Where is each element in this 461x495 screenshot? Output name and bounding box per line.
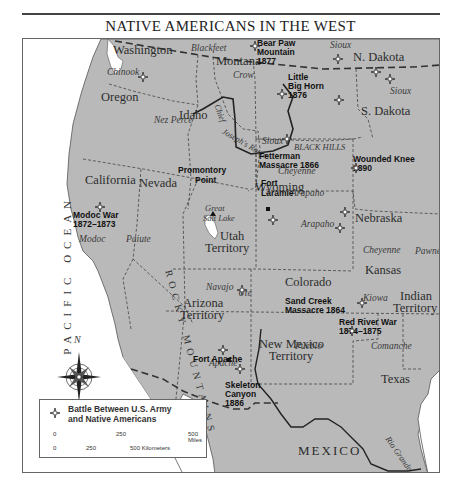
tribe-chinook: Chinook: [107, 68, 139, 78]
state-washington: Washington: [113, 44, 172, 57]
battle-star-icon: [138, 72, 148, 82]
tribe-sioux-wy: Sioux: [262, 137, 283, 147]
pacific-ocean-label: PACIFIC OCEAN: [62, 155, 74, 355]
state-montana: Montana: [216, 55, 260, 68]
battle-star-icon: [371, 67, 381, 77]
black-hills-label: BLACK HILLS: [294, 143, 345, 152]
great-salt-lake-label-1: Great: [205, 204, 225, 213]
battle-bear-paw: Bear PawMountain1877: [257, 39, 295, 66]
tribe-pawnee: Pawnee: [415, 247, 440, 257]
tribe-navajo: Navajo: [206, 283, 233, 293]
battle-star-icon: [334, 95, 344, 105]
legend-box: Battle Between U.S. Armyand Native Ameri…: [39, 399, 207, 458]
fort-apache-label: Fort Apache: [193, 355, 242, 364]
battle-star-icon: [235, 364, 245, 374]
great-salt-lake-label-2: Salt Lake: [203, 214, 235, 223]
battle-star-icon: [237, 285, 247, 295]
tribe-blackfeet: Blackfeet: [191, 44, 226, 54]
state-kansas: Kansas: [365, 264, 401, 277]
scale-km-500: 500 Kilometers: [130, 445, 170, 451]
fort-laramie-marker: [266, 207, 270, 211]
scale-miles-250: 250: [116, 431, 126, 437]
tribe-cheyenne-ks: Cheyenne: [363, 246, 400, 256]
state-n-dakota: N. Dakota: [353, 51, 404, 64]
state-colorado: Colorado: [285, 276, 332, 289]
tribe-arapaho-co: Arapaho: [301, 220, 334, 230]
compass-rose: [57, 352, 101, 402]
battle-star-icon: [333, 54, 343, 64]
fort-laramie-label-2: Laramie: [261, 189, 294, 198]
battle-fetterman: FettermanMassacre 1866: [259, 152, 319, 170]
state-s-dakota: S. Dakota: [361, 105, 410, 118]
battle-star-icon: [50, 408, 60, 418]
state-nebraska: Nebraska: [355, 212, 402, 225]
battle-sand-creek: Sand CreekMassacre 1864: [285, 297, 345, 315]
scale-miles-500: 500 Miles: [188, 431, 206, 443]
map-frame: PACIFIC OCEAN MEXICO ROCKY MOUNTAINS Was…: [22, 38, 440, 473]
state-utah-2: Territory: [205, 242, 249, 255]
promontory-point-label-1: Promontory: [178, 166, 226, 175]
compass-north-label: N: [74, 335, 81, 346]
state-nevada: Nevada: [139, 177, 177, 190]
state-indian-2: Territory: [393, 302, 437, 315]
state-oregon: Oregon: [101, 91, 139, 104]
tribe-crow: Crow: [233, 71, 254, 81]
state-arizona-2: Territory: [180, 309, 224, 322]
fort-laramie-label-1: Fort: [261, 179, 278, 188]
title-rule: [22, 13, 440, 15]
battle-star-icon: [357, 298, 367, 308]
battle-star-icon: [277, 89, 287, 99]
mexico-label: MEXICO: [298, 444, 361, 458]
battle-star-icon: [335, 223, 345, 233]
legend-label: Battle Between U.S. Armyand Native Ameri…: [68, 405, 172, 425]
tribe-arapaho-wy: Arapaho: [291, 189, 324, 199]
battle-star-icon: [347, 326, 357, 336]
tribe-pueblo: Pueblo: [295, 342, 322, 352]
tribe-comanche: Comanche: [371, 342, 412, 352]
battle-star-icon: [250, 41, 260, 51]
tribe-nez-perce: Nez Perce: [154, 116, 192, 126]
battle-modoc-war: Modoc War1872–1873: [73, 211, 119, 229]
promontory-point-label-2: Point: [195, 176, 216, 185]
battle-star-icon: [340, 207, 350, 217]
battle-star-icon: [218, 345, 228, 355]
battle-little-big-horn: LittleBig Horn1876: [288, 73, 324, 100]
scale-km-0: 0: [53, 445, 56, 451]
map-title: NATIVE AMERICANS IN THE WEST: [0, 18, 461, 35]
battle-star-icon: [385, 74, 395, 84]
state-california: California: [85, 174, 136, 187]
battle-skeleton-canyon: SkeletonCanyon1886: [225, 381, 260, 408]
scale-miles-0: 0: [53, 431, 56, 437]
battle-star-icon: [282, 134, 292, 144]
battle-star-icon: [351, 163, 361, 173]
state-texas: Texas: [381, 373, 410, 386]
tribe-paiute: Paiute: [126, 235, 151, 245]
scale-km-250: 250: [86, 445, 96, 451]
battle-star-icon: [95, 202, 105, 212]
state-new-mexico-2: Territory: [269, 350, 313, 363]
battle-star-icon: [268, 215, 278, 225]
tribe-sioux-sd: Sioux: [390, 87, 411, 97]
battle-wounded-knee: Wounded Knee1890: [353, 155, 415, 173]
tribe-sioux-nd: Sioux: [330, 41, 351, 51]
tribe-modoc: Modoc: [79, 235, 105, 245]
